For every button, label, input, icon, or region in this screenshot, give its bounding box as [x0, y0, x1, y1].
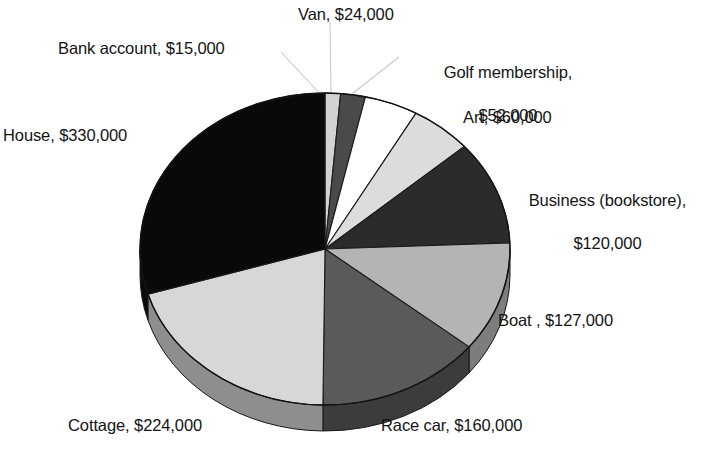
- slice-label-bank-account: Bank account, $15,000: [58, 38, 225, 60]
- leader-lines: [281, 22, 399, 97]
- slice-label-business: Business (bookstore), $120,000: [492, 168, 705, 277]
- slice-label-golf-membership: Golf membership, $52,000: [404, 40, 594, 149]
- slice-label-boat: Boat , $127,000: [498, 310, 613, 332]
- slice-label-business-line1: Business (bookstore),: [529, 191, 686, 209]
- leader-line-golf-membership: [348, 57, 399, 97]
- slice-label-business-line2: $120,000: [573, 234, 641, 252]
- slice-label-house: House, $330,000: [3, 125, 127, 147]
- slice-label-art: Art, $60,000: [463, 107, 552, 129]
- leader-line-van: [330, 22, 331, 94]
- pie-chart: Van, $24,000 Bank account, $15,000 Golf …: [0, 0, 705, 450]
- slice-label-golf-membership-line1: Golf membership,: [444, 63, 573, 81]
- slice-label-cottage: Cottage, $224,000: [68, 415, 202, 437]
- slice-label-van: Van, $24,000: [298, 4, 394, 26]
- leader-line-bank-account: [281, 52, 322, 96]
- slice-label-race-car: Race car, $160,000: [381, 415, 522, 437]
